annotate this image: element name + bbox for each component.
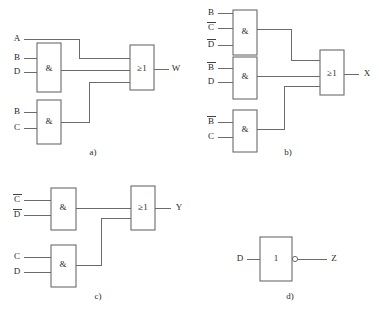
label-c-and1-in2: D <box>14 209 21 219</box>
or-gate-a-symbol: ≥1 <box>137 63 146 73</box>
and-gate-b1-symbol: & <box>241 26 248 36</box>
label-a-and2-in1: B <box>14 106 20 116</box>
inverter-bubble-icon <box>292 256 297 261</box>
label-a-input-a: A <box>14 33 21 43</box>
label-a-and1-in2: D <box>14 66 21 76</box>
wire-b-and1-out <box>257 29 320 60</box>
label-c-and1-in1: C <box>14 194 20 204</box>
label-a-and1-in1: B <box>14 52 20 62</box>
inverter-gate-d-symbol: 1 <box>274 253 279 263</box>
label-b-and3-in1: B <box>208 116 214 126</box>
and-gate-a1-symbol: & <box>45 63 52 73</box>
label-b-and3-in2: C <box>208 131 214 141</box>
or-gate-c-symbol: ≥1 <box>138 202 147 212</box>
or-gate-b-symbol: ≥1 <box>327 68 336 78</box>
and-gate-b3-symbol: & <box>241 124 248 134</box>
label-b-output: X <box>364 68 371 78</box>
and-gate-c1-symbol: & <box>59 202 66 212</box>
label-b-and1-in1: B <box>208 7 214 17</box>
wire-b-and3-out <box>257 86 320 129</box>
label-c-output: Y <box>176 202 183 212</box>
wire-c-and2-out <box>76 218 131 265</box>
label-d-input: D <box>237 253 244 263</box>
label-c-and2-in1: C <box>14 251 20 261</box>
part-a-group: A & B D & B C ≥1 W a) <box>14 33 181 157</box>
caption-part-a: a) <box>90 147 97 157</box>
logic-circuit-diagram: A & B D & B C ≥1 W a) & B <box>0 0 379 313</box>
label-a-output: W <box>172 63 181 73</box>
and-gate-c2-symbol: & <box>59 259 66 269</box>
part-c-group: & C D & C D ≥1 Y c) <box>13 186 183 301</box>
caption-part-b: b) <box>284 147 292 157</box>
label-b-and2-in2: D <box>208 76 215 86</box>
and-gate-a2-symbol: & <box>45 116 52 126</box>
caption-part-c: c) <box>95 291 102 301</box>
wire-a-and2-out <box>61 82 130 122</box>
label-b-and1-in3: D <box>208 39 215 49</box>
label-c-and2-in2: D <box>14 266 21 276</box>
label-b-and1-in2: C <box>208 22 214 32</box>
label-b-and2-in1: B <box>208 62 214 72</box>
part-b-group: & B C D & B D & B C ≥1 <box>207 7 371 157</box>
label-a-and2-in2: C <box>14 122 20 132</box>
part-d-group: 1 D Z d) <box>237 237 337 301</box>
label-d-output: Z <box>331 253 337 263</box>
caption-part-d: d) <box>286 291 294 301</box>
and-gate-b2-symbol: & <box>241 71 248 81</box>
